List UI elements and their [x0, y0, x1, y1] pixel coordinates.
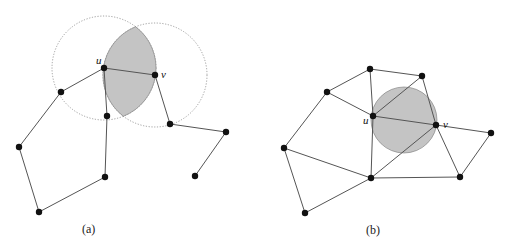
label-v-a: v [161, 68, 166, 80]
edge [327, 92, 373, 116]
label-v-b: v [443, 118, 448, 130]
edge [436, 125, 460, 177]
edge [327, 69, 370, 92]
node-n1 [58, 89, 64, 95]
edge [195, 132, 226, 176]
node-t2 [419, 73, 425, 79]
edge [370, 69, 422, 76]
edge [155, 75, 170, 124]
node-r [488, 130, 494, 136]
edge [61, 68, 104, 92]
edge [371, 177, 460, 178]
edge [370, 69, 373, 116]
edge [284, 92, 327, 148]
edge [284, 148, 371, 178]
node-v [433, 122, 439, 128]
figure-b: u v (b) [281, 66, 494, 237]
edge [305, 178, 371, 213]
node-u [370, 113, 376, 119]
label-u-b: u [363, 114, 369, 126]
node-n7 [192, 173, 198, 179]
label-u-a: u [96, 54, 102, 66]
node-n5 [16, 144, 22, 150]
edge [39, 177, 105, 212]
edge [284, 148, 305, 213]
edge [19, 147, 39, 212]
node-n4 [223, 129, 229, 135]
edge [19, 92, 61, 147]
node-u [101, 65, 107, 71]
node-n8 [36, 209, 42, 215]
node-n3 [167, 121, 173, 127]
node-n6 [102, 174, 108, 180]
edge [170, 124, 226, 132]
edge [105, 116, 107, 177]
node-v [152, 72, 158, 78]
node-bl [302, 210, 308, 216]
node-n2 [104, 113, 110, 119]
node-fl [281, 145, 287, 151]
node-t1 [367, 66, 373, 72]
caption-b: (b) [366, 223, 380, 237]
edge [460, 133, 491, 177]
node-bm [368, 175, 374, 181]
node-lu [324, 89, 330, 95]
caption-a: (a) [82, 222, 95, 236]
node-br [457, 174, 463, 180]
figure-a: u v (a) [16, 16, 229, 236]
diagram-canvas: u v (a) u v (b) [0, 0, 507, 249]
